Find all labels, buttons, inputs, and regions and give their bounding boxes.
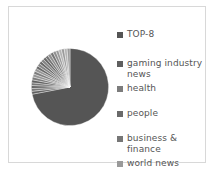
legend-swatch-icon xyxy=(117,161,123,167)
legend-item[interactable]: health xyxy=(117,83,156,94)
legend-item-label: people xyxy=(127,108,158,119)
pie-chart xyxy=(31,48,109,126)
legend-swatch-icon xyxy=(117,136,123,142)
legend-swatch-icon xyxy=(117,61,123,67)
legend-item[interactable]: world news xyxy=(117,158,179,169)
chart-frame: TOP-8gaming industry newshealthpeoplebus… xyxy=(8,6,206,163)
chart-area: TOP-8gaming industry newshealthpeoplebus… xyxy=(19,15,213,168)
legend-item-label: TOP-8 xyxy=(127,29,154,40)
pie-chart-screenshot: TOP-8gaming industry newshealthpeoplebus… xyxy=(0,0,215,172)
legend-item-label: gaming industry news xyxy=(127,58,213,80)
legend-swatch-icon xyxy=(117,32,123,38)
legend-item-label: business & finance xyxy=(127,133,213,155)
pie-chart-svg xyxy=(31,48,109,126)
legend-item[interactable]: business & finance xyxy=(117,133,213,155)
legend-item[interactable]: people xyxy=(117,108,158,119)
legend-item-label: health xyxy=(127,83,156,94)
legend-item-label: world news xyxy=(127,158,179,169)
legend-item[interactable]: TOP-8 xyxy=(117,29,154,40)
legend-swatch-icon xyxy=(117,86,123,92)
legend-item[interactable]: gaming industry news xyxy=(117,58,213,80)
legend-swatch-icon xyxy=(117,111,123,117)
chart-legend: TOP-8gaming industry newshealthpeoplebus… xyxy=(117,19,213,164)
